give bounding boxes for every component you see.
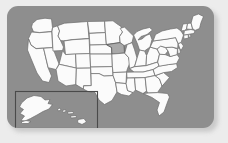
state-south-dakota[interactable] [89,33,106,45]
state-washington[interactable] [32,18,53,32]
state-hawaii-island-1[interactable] [58,108,62,111]
state-arizona[interactable] [56,64,76,86]
state-hawaii-island-2[interactable] [63,110,67,113]
us-map[interactable] [7,6,214,128]
screenshot-stage [0,0,228,143]
state-arkansas[interactable] [113,72,127,83]
state-hawaii-island-4[interactable] [71,116,77,119]
state-colorado[interactable] [76,54,91,69]
state-north-dakota[interactable] [88,21,106,33]
state-florida[interactable] [143,93,169,116]
state-alaska[interactable] [20,96,53,122]
state-vermont[interactable] [181,24,187,31]
state-hawaii-island-3[interactable] [68,112,74,115]
state-kansas[interactable] [90,54,112,67]
state-wyoming[interactable] [64,39,90,55]
state-alabama[interactable] [135,78,147,94]
state-montana[interactable] [58,22,89,41]
state-massachusetts[interactable] [184,30,195,35]
state-mississippi[interactable] [126,78,135,93]
map-panel [7,6,214,128]
state-maine[interactable] [191,14,203,30]
state-hawaii-island-5[interactable] [78,119,87,125]
